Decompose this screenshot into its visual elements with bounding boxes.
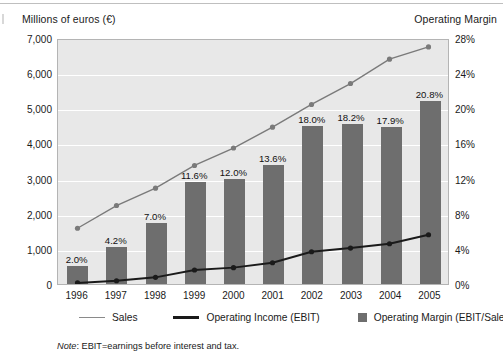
marker-sales-2001 bbox=[270, 125, 275, 130]
bar-label-1997: 4.2% bbox=[105, 235, 127, 246]
bar-label-2005: 20.8% bbox=[416, 89, 443, 100]
bar-label-2002: 18.0% bbox=[298, 114, 325, 125]
bar-label-2003: 18.2% bbox=[337, 112, 364, 123]
marker-sales-1998 bbox=[153, 186, 158, 191]
line-ebit bbox=[78, 235, 429, 283]
marker-sales-2002 bbox=[309, 102, 314, 107]
x-tick-2004: 2004 bbox=[379, 290, 401, 301]
line-sales bbox=[78, 47, 429, 228]
marker-sales-1997 bbox=[114, 203, 119, 208]
bar-label-1996: 2.0% bbox=[66, 254, 88, 265]
line-series bbox=[58, 40, 448, 284]
marker-ebit-2002 bbox=[309, 249, 314, 254]
left-tick-3,000: 3,000 bbox=[0, 174, 52, 185]
marker-ebit-2000 bbox=[231, 265, 236, 270]
top-rule bbox=[0, 3, 503, 4]
bar-label-1999: 11.6% bbox=[181, 170, 208, 181]
marker-sales-1996 bbox=[75, 226, 80, 231]
right-tick-16%: 16% bbox=[455, 139, 475, 150]
marker-sales-2003 bbox=[348, 81, 353, 86]
bar-label-2001: 13.6% bbox=[259, 153, 286, 164]
marker-sales-2005 bbox=[426, 44, 431, 49]
bar-label-2000: 12.0% bbox=[220, 167, 247, 178]
right-axis-title: Operating Margin bbox=[414, 13, 497, 25]
bar-label-2004: 17.9% bbox=[377, 115, 404, 126]
x-tick-1997: 1997 bbox=[105, 290, 127, 301]
left-tick-4,000: 4,000 bbox=[0, 139, 52, 150]
x-tick-1998: 1998 bbox=[144, 290, 166, 301]
marker-ebit-1998 bbox=[153, 275, 158, 280]
marker-ebit-2001 bbox=[270, 260, 275, 265]
left-tick-2,000: 2,000 bbox=[0, 209, 52, 220]
ebit-line-swatch-icon bbox=[173, 316, 199, 319]
right-tick-28%: 28% bbox=[455, 34, 475, 45]
chart-note: Note: EBIT=earnings before interest and … bbox=[57, 341, 239, 351]
margin-bar-swatch-icon bbox=[358, 313, 367, 322]
plot-area bbox=[57, 39, 449, 285]
marker-ebit-2005 bbox=[426, 232, 431, 237]
marker-ebit-2003 bbox=[348, 246, 353, 251]
left-edge-mark bbox=[2, 14, 4, 24]
left-tick-0: 0 bbox=[0, 280, 52, 291]
marker-sales-2004 bbox=[387, 57, 392, 62]
legend-item-sales: Sales bbox=[79, 312, 137, 323]
marker-sales-1999 bbox=[192, 163, 197, 168]
x-tick-2002: 2002 bbox=[301, 290, 323, 301]
legend-label-margin: Operating Margin (EBIT/Sales) bbox=[374, 312, 503, 323]
right-tick-8%: 8% bbox=[455, 209, 469, 220]
right-tick-0%: 0% bbox=[455, 280, 469, 291]
right-tick-20%: 20% bbox=[455, 104, 475, 115]
chart-legend: Sales Operating Income (EBIT) Operating … bbox=[57, 312, 449, 323]
legend-label-ebit: Operating Income (EBIT) bbox=[206, 312, 319, 323]
marker-ebit-1999 bbox=[192, 267, 197, 272]
left-tick-6,000: 6,000 bbox=[0, 69, 52, 80]
legend-item-ebit: Operating Income (EBIT) bbox=[173, 312, 319, 323]
legend-item-margin: Operating Margin (EBIT/Sales) bbox=[358, 312, 503, 323]
x-tick-1996: 1996 bbox=[65, 290, 87, 301]
sales-line-swatch-icon bbox=[79, 317, 105, 319]
left-axis-title: Millions of euros (€) bbox=[22, 13, 116, 25]
right-tick-24%: 24% bbox=[455, 69, 475, 80]
right-tick-12%: 12% bbox=[455, 174, 475, 185]
x-tick-2005: 2005 bbox=[418, 290, 440, 301]
left-tick-5,000: 5,000 bbox=[0, 104, 52, 115]
right-tick-4%: 4% bbox=[455, 244, 469, 255]
left-tick-1,000: 1,000 bbox=[0, 244, 52, 255]
note-prefix: Note bbox=[57, 341, 76, 351]
marker-ebit-1996 bbox=[75, 280, 80, 284]
bar-label-1998: 7.0% bbox=[144, 211, 166, 222]
x-tick-2003: 2003 bbox=[340, 290, 362, 301]
legend-label-sales: Sales bbox=[112, 312, 137, 323]
marker-sales-2000 bbox=[231, 145, 236, 150]
chart-page: Millions of euros (€) Operating Margin 2… bbox=[0, 0, 503, 362]
x-tick-2001: 2001 bbox=[261, 290, 283, 301]
note-text: : EBIT=earnings before interest and tax. bbox=[76, 341, 239, 351]
x-tick-2000: 2000 bbox=[222, 290, 244, 301]
marker-ebit-2004 bbox=[387, 241, 392, 246]
left-tick-7,000: 7,000 bbox=[0, 34, 52, 45]
x-tick-1999: 1999 bbox=[183, 290, 205, 301]
marker-ebit-1997 bbox=[114, 278, 119, 283]
